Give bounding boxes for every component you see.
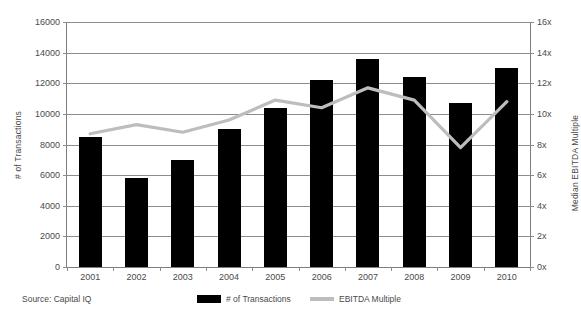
y-axis-left-tick-label: 4000: [14, 201, 60, 211]
y-axis-right-tick-label: 10x: [537, 109, 567, 119]
x-axis-label: 2009: [438, 272, 484, 282]
x-axis-tickmark: [160, 267, 161, 271]
x-axis-label: 2002: [113, 272, 159, 282]
chart-container: # of Transactions Median EBITDA Multiple…: [0, 0, 581, 319]
x-axis-tickmark: [113, 267, 114, 271]
legend-swatch-line-icon: [310, 297, 334, 301]
axis-tickmark: [530, 206, 534, 207]
y-axis-right-ticks: 0x2x4x6x8x10x12x14x16x: [537, 0, 569, 319]
y-axis-right-tick-label: 16x: [537, 17, 567, 27]
x-axis-tickmark: [206, 267, 207, 271]
axis-tickmark: [530, 145, 534, 146]
y-axis-right-tick-label: 14x: [537, 48, 567, 58]
axis-tickmark: [530, 175, 534, 176]
y-axis-left-ticks: 0200040006000800010000120001400016000: [14, 0, 60, 319]
x-axis-label: 2004: [206, 272, 252, 282]
y-axis-left-tick-label: 12000: [14, 78, 60, 88]
y-axis-left-tick-label: 0: [14, 262, 60, 272]
x-axis-label: 2001: [67, 272, 113, 282]
y-axis-right-tick-label: 4x: [537, 201, 567, 211]
x-axis-label: 2003: [160, 272, 206, 282]
y-axis-left-tick-label: 6000: [14, 170, 60, 180]
x-axis-label: 2005: [252, 272, 298, 282]
x-axis-tickmark: [391, 267, 392, 271]
axis-tickmark: [530, 236, 534, 237]
y-axis-left-tick-label: 14000: [14, 48, 60, 58]
legend-item-ebitda: EBITDA Multiple: [310, 294, 401, 304]
legend-swatch-bar-icon: [197, 295, 221, 303]
x-axis-label: 2007: [345, 272, 391, 282]
source-note: Source: Capital IQ: [22, 294, 91, 304]
axis-tickmark: [530, 83, 534, 84]
chart-footer: Source: Capital IQ # of Transactions EBI…: [0, 294, 581, 310]
x-axis-tickmark: [484, 267, 485, 271]
y-axis-left-tick-label: 10000: [14, 109, 60, 119]
y-axis-right-tick-label: 2x: [537, 231, 567, 241]
legend-label-ebitda: EBITDA Multiple: [339, 294, 401, 304]
y-axis-left-tick-label: 2000: [14, 231, 60, 241]
x-axis-label: 2008: [391, 272, 437, 282]
legend-label-transactions: # of Transactions: [226, 294, 291, 304]
x-axis-tickmark: [345, 267, 346, 271]
axis-tickmark: [530, 22, 534, 23]
y-axis-left-tick-label: 8000: [14, 140, 60, 150]
y-axis-left-tick-label: 16000: [14, 17, 60, 27]
x-axis-tickmark: [299, 267, 300, 271]
y-axis-right-tick-label: 8x: [537, 140, 567, 150]
x-axis-label: 2010: [484, 272, 530, 282]
y-axis-right-title: Median EBITDA Multiple: [570, 93, 580, 233]
y-axis-right-tick-label: 12x: [537, 78, 567, 88]
line-series: [67, 22, 530, 267]
x-axis-tickmark: [67, 267, 68, 271]
axis-tickmark: [530, 53, 534, 54]
ebitda-multiple-line: [90, 88, 507, 148]
x-axis-tickmark: [437, 267, 438, 271]
y-axis-right-tick-label: 0x: [537, 262, 567, 272]
axis-tickmark: [530, 114, 534, 115]
y-axis-right-tick-label: 6x: [537, 170, 567, 180]
x-axis-tickmark: [530, 267, 531, 271]
legend-item-transactions: # of Transactions: [197, 294, 291, 304]
plot-area: [67, 22, 530, 267]
x-axis-labels: 2001200220032004200520062007200820092010: [67, 272, 530, 286]
x-axis-label: 2006: [299, 272, 345, 282]
x-axis-tickmark: [252, 267, 253, 271]
